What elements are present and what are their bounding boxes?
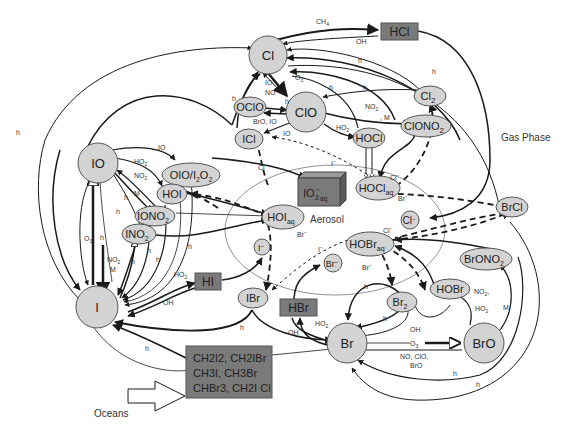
label-h: h — [383, 315, 387, 322]
svg-text:O3: O3 — [295, 74, 303, 83]
subscript: aq — [377, 245, 385, 253]
superscript: − — [304, 229, 307, 235]
label-h: h — [453, 370, 457, 377]
node-ICl-label: ICl — [242, 133, 255, 145]
svg-text:NO2: NO2 — [134, 172, 148, 181]
node-Br-label: Br — [341, 336, 355, 351]
svg-text:O3: O3 — [410, 340, 418, 349]
label-m: M — [110, 266, 116, 273]
subscript: 2 — [500, 260, 504, 267]
node-HOIaq: HOIaq — [262, 205, 304, 229]
label-bro: BrO — [410, 362, 423, 369]
label-h: h — [476, 381, 480, 388]
label-ho2: HO — [315, 320, 326, 327]
node-HBr: HBr — [280, 299, 317, 316]
subscript: 2 — [145, 235, 149, 242]
node-Brminus-label: Br — [326, 259, 335, 269]
subscript: 3 — [315, 194, 319, 201]
node-ClONO2-label: ClONO — [404, 120, 440, 132]
node-BrCl-label: BrCl — [501, 201, 522, 213]
node-OIO-I2O2: OIO/I2O2 — [162, 163, 220, 187]
svg-text:I−: I− — [318, 244, 323, 253]
node-Clminus: Cl− — [401, 211, 419, 229]
node-Br2-label: Br — [393, 296, 404, 308]
node-IO3aq: IO3−aq — [298, 172, 346, 206]
label-io-no: IO, — [265, 79, 274, 86]
label-m: M — [134, 190, 140, 197]
node-HBr-label: HBr — [288, 301, 309, 315]
label-h: h — [147, 247, 151, 254]
node-ICl: ICl — [235, 129, 263, 149]
label-h: h — [240, 324, 244, 331]
comma: , — [487, 288, 489, 295]
aerosol-label: Aerosol — [310, 214, 344, 225]
label-no: NO — [265, 89, 276, 96]
label-h: h — [329, 84, 333, 91]
subscript: 2 — [165, 217, 169, 224]
superscript: − — [390, 225, 393, 231]
node-HOCl-label: HOCl — [356, 132, 383, 144]
sources-line-2: CH3I, CH3Br — [193, 367, 258, 379]
node-IONO2: IONO2 — [135, 206, 175, 226]
label-io: IO — [283, 130, 291, 137]
superscript: − — [335, 259, 339, 265]
label-h: h — [232, 95, 236, 102]
superscript: − — [265, 162, 268, 168]
label-m: M — [503, 304, 509, 311]
label-ho2: HO — [475, 305, 486, 312]
label-h: h — [145, 345, 149, 352]
label-no-clo: NO, ClO, — [400, 353, 428, 360]
label-h: h — [364, 283, 368, 290]
superscript: − — [320, 244, 323, 250]
superscript: − — [333, 158, 336, 164]
subscript: 3 — [415, 343, 418, 349]
oceans-arrow — [128, 381, 185, 411]
node-OClO: OClO — [234, 97, 266, 117]
superscript: − — [316, 186, 320, 193]
node-Br2: Br2 — [387, 292, 417, 312]
subscript: 2 — [145, 175, 148, 181]
label-ch4: CH — [316, 18, 326, 25]
node-HOCl: HOCl — [353, 128, 385, 148]
superscript: − — [405, 193, 408, 199]
label-io: IO — [158, 144, 166, 151]
node-BrO-label: BrO — [472, 336, 495, 351]
superscript: − — [397, 172, 400, 178]
node-INO2: INO2 — [122, 224, 156, 244]
label-bro-io: BrO, IO — [253, 118, 277, 125]
node-Clminus-label: Cl — [403, 215, 412, 226]
subscript: 4 — [326, 21, 329, 27]
label-h: h — [124, 194, 128, 201]
subscript: 2 — [145, 161, 148, 167]
node-IO3aq-label: IO — [303, 187, 315, 199]
node-HI-label: HI — [202, 275, 214, 289]
subscript: 2 — [440, 126, 445, 135]
superscript: − — [369, 262, 372, 268]
node-BrONO2: BrONO2 — [460, 248, 512, 270]
node-HOIaq-label: HOI — [267, 211, 287, 223]
svg-text:O3: O3 — [84, 235, 92, 244]
label-h: h — [116, 208, 120, 215]
subscript: 2 — [347, 127, 350, 133]
node-HOI: HOI — [157, 184, 187, 204]
node-OIO-label: OIO/I — [170, 169, 196, 181]
subscript: 2 — [376, 106, 379, 112]
subscript: 2 — [431, 96, 436, 105]
node-ClONO2: ClONO2 — [401, 115, 451, 137]
label-h: h — [285, 98, 289, 105]
svg-text:NO2,: NO2, — [474, 288, 489, 297]
node-IBr-label: IBr — [246, 292, 260, 304]
node-HCl-label: HCl — [390, 25, 410, 39]
subscript: 2 — [326, 323, 329, 329]
label-h: h — [131, 258, 135, 265]
svg-text:Cl−: Cl− — [390, 172, 400, 181]
label-oh: OH — [356, 38, 367, 45]
node-BrCl: BrCl — [496, 197, 528, 217]
svg-text:IONO2: IONO2 — [137, 210, 169, 224]
subscript: 2 — [118, 259, 121, 265]
label-no2: NO — [134, 172, 145, 179]
gas-phase-label: Gas Phase — [501, 132, 551, 143]
node-HOBraq-label: HOBr — [349, 238, 377, 250]
svg-text:HO2: HO2 — [174, 271, 188, 280]
label-no2: NO — [365, 103, 376, 110]
